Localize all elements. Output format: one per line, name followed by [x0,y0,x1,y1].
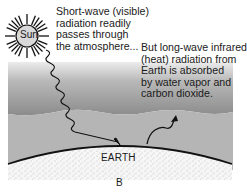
longwave-caption: But long-wave infrared (heat) radiation … [141,42,247,100]
shortwave-caption: Short-wave (visible) radiation readily p… [56,6,149,52]
sun-label: Sun [20,29,38,40]
panel-label: B [116,177,123,188]
earth-label: EARTH [101,152,136,163]
